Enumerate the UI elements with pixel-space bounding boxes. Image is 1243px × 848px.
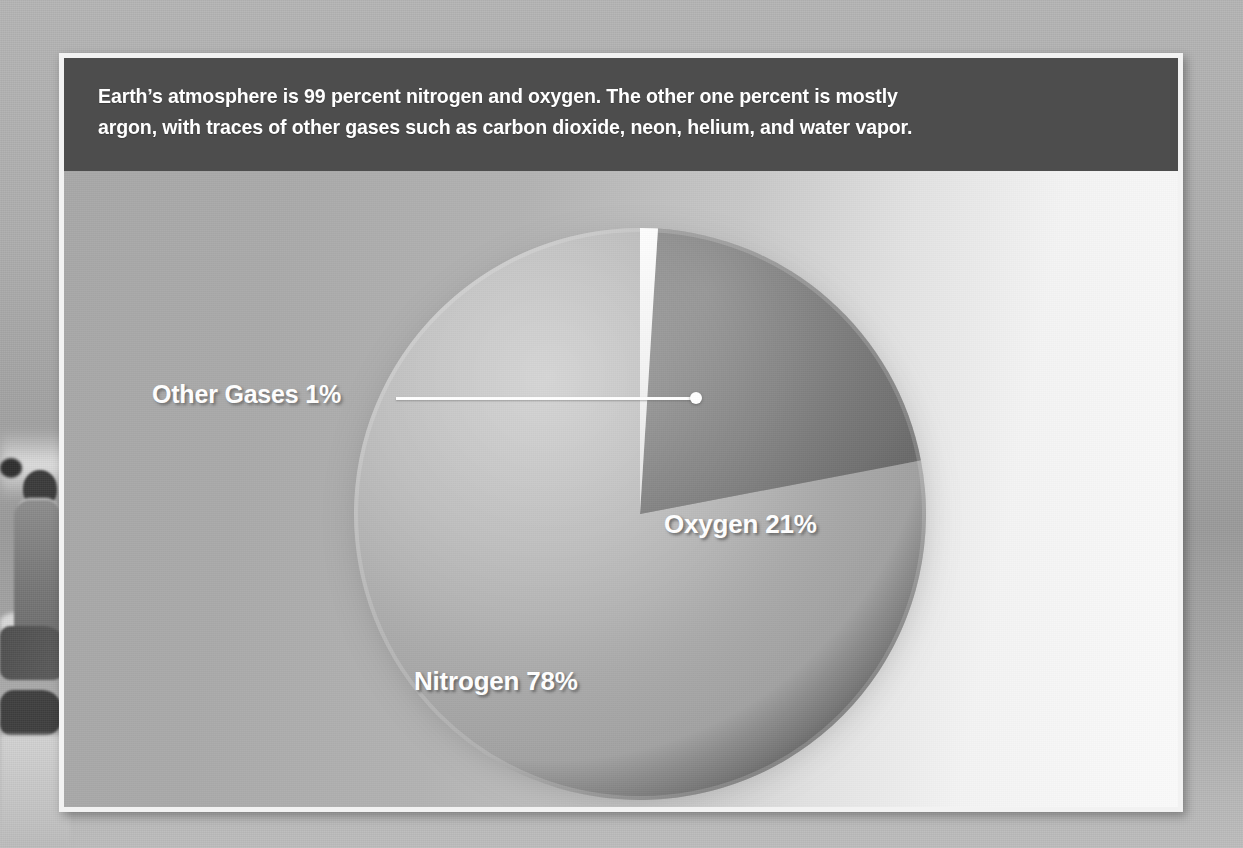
pie-label-oxygen: Oxygen 21%: [664, 509, 817, 540]
pie-chart: [354, 228, 926, 800]
caption-text: Earth’s atmosphere is 99 percent nitroge…: [98, 80, 1097, 142]
pie-chart-area: Nitrogen 78% Oxygen 21% Other Gases 1%: [64, 171, 1178, 807]
pie-label-other-gases: Other Gases 1%: [152, 380, 341, 409]
other-gases-leader-line: [396, 397, 692, 400]
pie-slices: [354, 228, 926, 800]
other-gases-leader-dot: [690, 392, 702, 404]
infographic-panel: Earth’s atmosphere is 99 percent nitroge…: [59, 53, 1183, 812]
caption-bar: Earth’s atmosphere is 99 percent nitroge…: [64, 58, 1178, 171]
slide-canvas: Earth’s atmosphere is 99 percent nitroge…: [0, 0, 1243, 848]
pie-label-nitrogen: Nitrogen 78%: [414, 666, 578, 697]
